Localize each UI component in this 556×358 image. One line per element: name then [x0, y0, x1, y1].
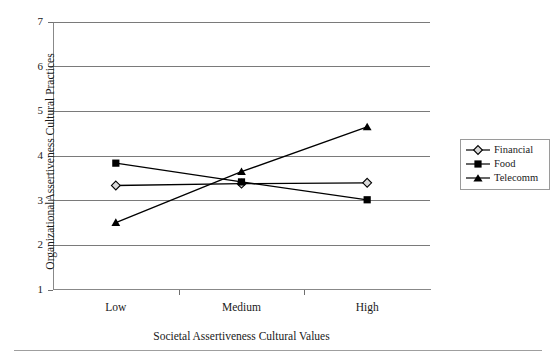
gridline: [53, 156, 430, 157]
y-axis-title-wrap: OrganizationalAssertiveness Cultural Pra…: [25, 15, 39, 295]
series-line: [116, 127, 367, 223]
diamond-open-icon: [465, 143, 491, 157]
footer-divider: [14, 350, 542, 351]
x-axis-line: [53, 289, 431, 290]
gridline: [53, 200, 430, 201]
triangle-filled-icon: [237, 167, 246, 175]
series-food: [112, 160, 371, 204]
series-line: [116, 163, 367, 200]
legend-item: Financial: [465, 143, 544, 157]
x-axis-title: Societal Assertiveness Cultural Values: [53, 330, 430, 343]
triangle-filled-icon: [363, 123, 372, 131]
triangle-filled-icon: [465, 171, 491, 185]
square-filled-icon: [238, 178, 245, 185]
chart-legend: Financial Food Telecomm: [460, 139, 550, 190]
legend-label: Telecomm: [491, 172, 538, 184]
legend-item: Telecomm: [465, 171, 544, 185]
gridline: [53, 111, 430, 112]
series-financial: [111, 178, 371, 189]
diamond-open-icon: [363, 178, 372, 187]
square-filled-icon: [465, 157, 491, 171]
triangle-filled-icon: [111, 218, 120, 226]
y-axis-title: OrganizationalAssertiveness Cultural Pra…: [44, 27, 57, 297]
legend-item: Food: [465, 157, 544, 171]
gridline: [53, 22, 430, 23]
diamond-open-icon: [237, 179, 246, 188]
x-tick-label: High: [322, 301, 412, 314]
gridline: [53, 66, 430, 67]
x-tick-label: Medium: [197, 301, 287, 314]
legend-label: Food: [491, 158, 516, 170]
legend-label: Financial: [491, 144, 533, 156]
series-line: [116, 183, 367, 186]
square-filled-icon: [112, 160, 119, 167]
chart-figure: 1234567 LowMediumHigh OrganizationalAsse…: [0, 0, 556, 358]
gridline: [53, 245, 430, 246]
x-tick-label: Low: [71, 301, 161, 314]
series-telecomm: [111, 123, 371, 226]
x-tick-mark: [179, 290, 180, 295]
diamond-open-icon: [111, 181, 120, 190]
x-tick-mark: [304, 290, 305, 295]
